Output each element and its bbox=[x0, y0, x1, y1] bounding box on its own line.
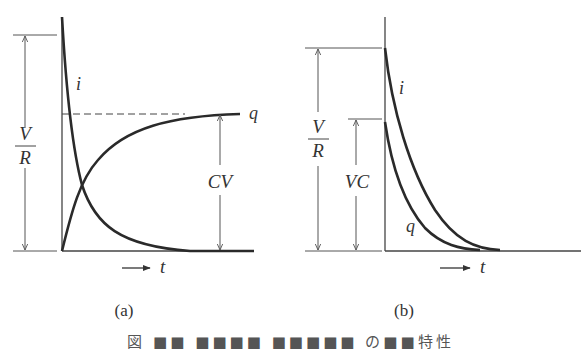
time-label: t bbox=[480, 256, 486, 277]
vr-denominator: R bbox=[18, 147, 31, 168]
cv-label: CV bbox=[208, 171, 235, 192]
curve-label-q: q bbox=[406, 216, 415, 236]
figure-caption: 図 ■■ ■■■■ ■■■■■ の■■特性 bbox=[0, 330, 581, 351]
charge-curve-q bbox=[385, 122, 480, 250]
current-curve-i bbox=[62, 17, 254, 251]
panel-a: V R i q CV t (a) bbox=[13, 17, 258, 320]
vr-numerator: V bbox=[19, 123, 33, 144]
curve-label-i: i bbox=[76, 74, 81, 94]
panel-label-a: (a) bbox=[115, 301, 134, 320]
panel-label-b: (b) bbox=[394, 301, 414, 320]
vc-label: VC bbox=[345, 171, 370, 192]
time-label: t bbox=[160, 256, 166, 277]
vr-denominator: R bbox=[311, 140, 324, 161]
vr-numerator: V bbox=[312, 116, 326, 137]
curve-label-i: i bbox=[399, 78, 404, 98]
panel-b: V R VC i q t (b) bbox=[305, 17, 581, 320]
curve-label-q: q bbox=[249, 103, 258, 123]
